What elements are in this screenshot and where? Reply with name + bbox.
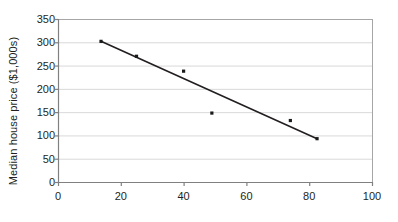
data-point-marker [289, 119, 292, 122]
grid-lines [58, 20, 372, 160]
axis-tick-marks [54, 20, 373, 187]
trend-line [101, 41, 317, 138]
data-point-marker [99, 40, 102, 43]
data-point-marker [210, 111, 213, 114]
data-point-marker [135, 55, 138, 58]
data-point-marker [315, 137, 318, 140]
trend-line-segment [101, 41, 317, 138]
data-point-marker [182, 70, 185, 73]
scatter-chart: Median house price ($1,000s) 05010015020… [0, 0, 398, 222]
plot-area [0, 0, 398, 222]
